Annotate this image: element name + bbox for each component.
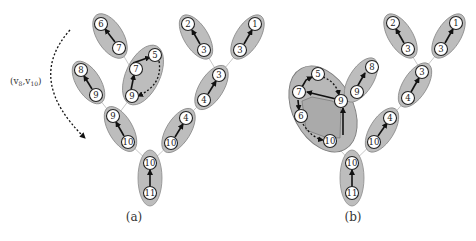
svg-text:1: 1 <box>252 19 257 29</box>
svg-text:9: 9 <box>110 111 115 121</box>
svg-text:9: 9 <box>338 96 343 106</box>
svg-text:10: 10 <box>166 138 177 148</box>
svg-text:6: 6 <box>98 19 103 29</box>
node: 4 <box>402 92 415 105</box>
svg-text:9: 9 <box>93 90 98 100</box>
figure: (v8,v10) 6 7 5 7 9 8 9 9 10 2 3 1 3 3 4 … <box>0 0 476 241</box>
node: 3 <box>402 43 415 56</box>
node: 9 <box>335 95 348 108</box>
node: 11 <box>346 187 359 200</box>
node: 10 <box>346 157 359 170</box>
svg-text:10: 10 <box>325 136 336 146</box>
caption-b: (b) <box>344 210 361 224</box>
node: 4 <box>180 112 193 125</box>
svg-text:4: 4 <box>201 95 206 105</box>
node: 7 <box>113 42 126 55</box>
svg-text:3: 3 <box>405 44 410 54</box>
svg-text:2: 2 <box>390 18 395 28</box>
node: 9 <box>126 90 139 103</box>
node: 3 <box>435 43 448 56</box>
node: 10 <box>324 135 337 148</box>
svg-text:3: 3 <box>216 70 221 80</box>
node: 6 <box>295 110 308 123</box>
svg-text:1: 1 <box>453 18 458 28</box>
svg-text:10: 10 <box>347 158 358 168</box>
svg-text:4: 4 <box>405 93 410 103</box>
svg-text:7: 7 <box>296 87 301 97</box>
node: 8 <box>366 61 379 74</box>
svg-text:7: 7 <box>116 43 121 53</box>
node: 3 <box>198 44 211 57</box>
node: 6 <box>95 18 108 31</box>
svg-text:10: 10 <box>123 137 134 147</box>
svg-text:8: 8 <box>78 65 83 75</box>
svg-text:3: 3 <box>419 67 424 77</box>
node: 10 <box>122 136 135 149</box>
node: 2 <box>387 17 400 30</box>
svg-text:4: 4 <box>183 113 188 123</box>
node: 3 <box>416 66 429 79</box>
node: 10 <box>368 136 381 149</box>
node: 3 <box>213 69 226 82</box>
panel-b: 5 7 6 9 10 8 9 2 3 1 3 3 4 4 10 10 11 (b… <box>275 8 472 224</box>
svg-text:7: 7 <box>133 64 138 74</box>
svg-text:5: 5 <box>315 69 320 79</box>
svg-text:9: 9 <box>354 87 359 97</box>
node: 4 <box>384 112 397 125</box>
node: 7 <box>293 86 306 99</box>
node: 9 <box>107 110 120 123</box>
node: 10 <box>165 137 178 150</box>
node: 1 <box>450 17 463 30</box>
svg-text:10: 10 <box>145 158 156 168</box>
node: 2 <box>182 18 195 31</box>
node: 8 <box>75 64 88 77</box>
node: 1 <box>249 18 262 31</box>
svg-text:5: 5 <box>152 50 157 60</box>
node: 5 <box>149 49 162 62</box>
svg-text:11: 11 <box>145 188 156 198</box>
caption-a: (a) <box>126 210 143 224</box>
svg-text:4: 4 <box>387 113 392 123</box>
edge-label: (v8,v10) <box>10 76 42 87</box>
node: 5 <box>312 68 325 81</box>
node: 9 <box>351 86 364 99</box>
svg-text:9: 9 <box>129 91 134 101</box>
node: 9 <box>90 89 103 102</box>
panel-a: (v8,v10) 6 7 5 7 9 8 9 9 10 2 3 1 3 3 4 … <box>10 8 271 224</box>
svg-text:11: 11 <box>347 188 358 198</box>
svg-text:6: 6 <box>298 111 303 121</box>
svg-text:8: 8 <box>369 62 374 72</box>
node: 10 <box>144 157 157 170</box>
svg-text:2: 2 <box>185 19 190 29</box>
svg-text:3: 3 <box>201 45 206 55</box>
node: 4 <box>198 94 211 107</box>
node: 3 <box>234 44 247 57</box>
svg-text:3: 3 <box>237 45 242 55</box>
svg-text:10: 10 <box>369 137 380 147</box>
node: 11 <box>144 187 157 200</box>
svg-text:3: 3 <box>438 44 443 54</box>
edge-arrow <box>298 100 299 110</box>
node: 7 <box>130 63 143 76</box>
